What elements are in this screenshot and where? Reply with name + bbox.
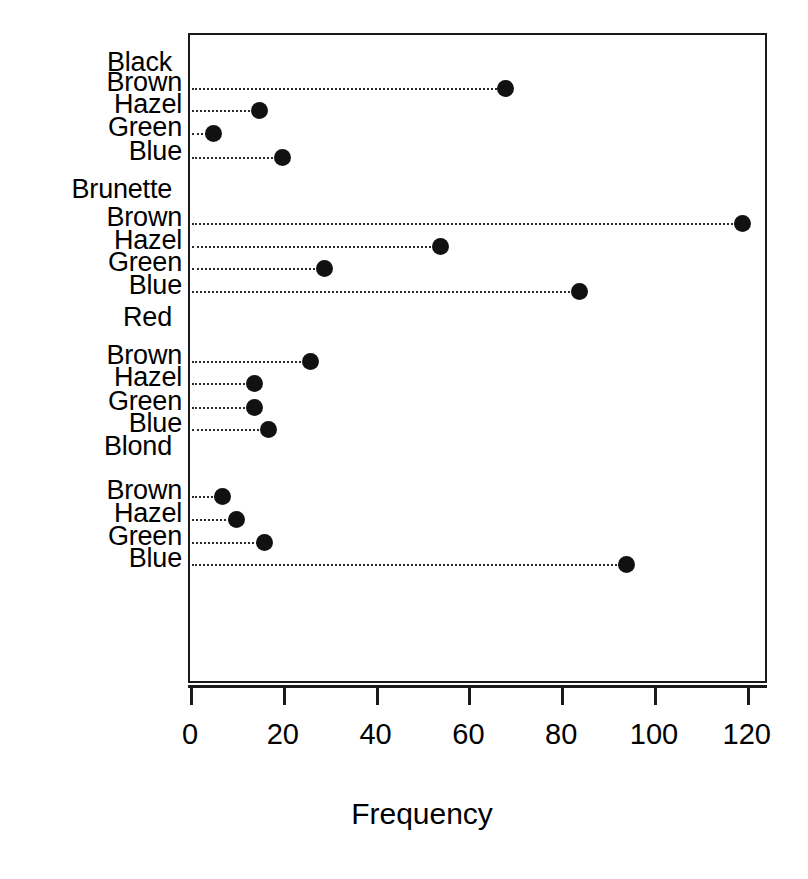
data-point [316, 260, 333, 277]
leader-line [192, 361, 305, 363]
x-tick-label: 60 [452, 718, 484, 750]
data-point [205, 125, 222, 142]
data-point [497, 80, 514, 97]
x-tick [468, 685, 471, 705]
x-tick-label: 20 [267, 718, 299, 750]
group-label-red: Red [123, 304, 172, 331]
data-point [256, 534, 273, 551]
data-point [571, 283, 588, 300]
leader-line [192, 88, 500, 90]
leader-line [192, 519, 230, 521]
leader-line [192, 110, 254, 112]
leader-line [192, 383, 249, 385]
data-point [246, 375, 263, 392]
x-tick-label: 100 [630, 718, 678, 750]
data-point [302, 353, 319, 370]
x-tick [283, 685, 286, 705]
data-point [214, 488, 231, 505]
x-tick-label: 120 [723, 718, 771, 750]
x-tick [561, 685, 564, 705]
data-point [251, 102, 268, 119]
data-point [618, 556, 635, 573]
leader-line [192, 223, 736, 225]
leader-line [192, 496, 216, 498]
group-label-brunette: Brunette [72, 176, 172, 203]
leader-line [192, 429, 263, 431]
data-point [734, 215, 751, 232]
data-point [274, 149, 291, 166]
row-label-brunette-blue: Blue [129, 272, 182, 299]
data-point [246, 399, 263, 416]
x-tick-label: 80 [545, 718, 577, 750]
leader-line [192, 268, 319, 270]
x-tick [654, 685, 657, 705]
data-point [260, 421, 277, 438]
leader-line [192, 246, 435, 248]
data-point [432, 238, 449, 255]
row-label-blond-blue: Blue [129, 545, 182, 572]
row-label-black-blue: Blue [129, 138, 182, 165]
x-tick [747, 685, 750, 705]
x-tick [376, 685, 379, 705]
leader-line [192, 564, 620, 566]
leader-line [192, 407, 249, 409]
x-axis-title: Frequency [0, 797, 808, 831]
x-axis-line [188, 685, 767, 688]
leader-line [192, 157, 277, 159]
x-tick [190, 685, 193, 705]
x-tick-label: 0 [182, 718, 198, 750]
leader-line [192, 542, 258, 544]
x-tick-label: 40 [359, 718, 391, 750]
group-label-blond: Blond [104, 433, 172, 460]
leader-line [192, 291, 574, 293]
data-point [228, 511, 245, 528]
dot-plot-figure: BlackBrownHazelGreenBlueBrunetteBrownHaz… [0, 0, 808, 879]
plot-frame [188, 33, 767, 683]
x-axis-title-text: Frequency [315, 797, 493, 830]
